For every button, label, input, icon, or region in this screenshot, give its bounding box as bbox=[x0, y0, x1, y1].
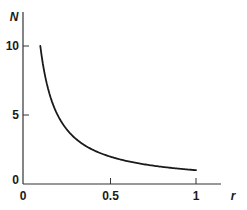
x-tick-label-1: 1 bbox=[193, 189, 200, 203]
x-axis-label: r bbox=[231, 189, 237, 203]
y-tick-label-0: 0 bbox=[12, 173, 19, 187]
x-tick-label-0.5: 0.5 bbox=[102, 189, 119, 203]
y-tick-label-5: 5 bbox=[12, 108, 19, 122]
y-axis-label: N bbox=[10, 10, 19, 24]
y-tick-label-10: 10 bbox=[6, 39, 20, 53]
data-curve-n-vs-r bbox=[40, 46, 196, 170]
line-chart: 10 5 0 0 0.5 1 N r bbox=[0, 0, 247, 210]
x-tick-label-0: 0 bbox=[20, 189, 27, 203]
